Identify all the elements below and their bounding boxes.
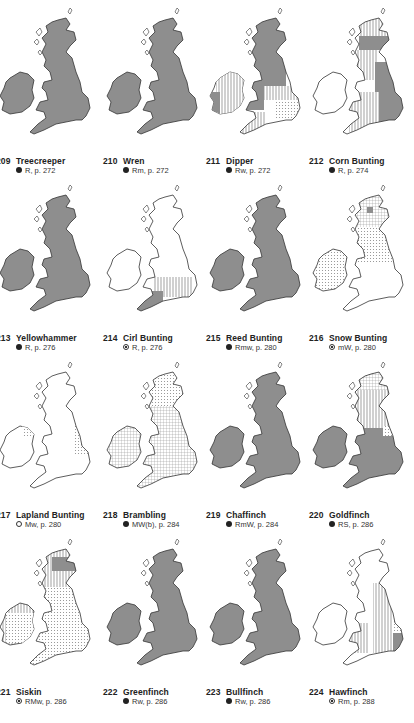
dotted-circle-icon — [329, 698, 335, 704]
species-title: 216Snow Bunting — [309, 333, 414, 343]
species-number: 223 — [206, 687, 226, 697]
ireland-shape — [313, 603, 347, 645]
map-plate: 209Treecreeper R, p. 272 — [0, 2, 100, 180]
map-caption: 216Snow Bunting mW, p. 280 — [309, 333, 414, 352]
species-title: 214Cirl Bunting — [103, 333, 213, 343]
species-name: Yellowhammer — [16, 333, 77, 343]
filled-circle-icon — [226, 521, 232, 527]
status-line: R, p. 276 — [0, 343, 106, 352]
filled-circle-icon — [226, 344, 232, 350]
species-title: 209Treecreeper — [0, 156, 106, 166]
species-name: Reed Bunting — [226, 333, 282, 343]
species-title: 224Hawfinch — [309, 687, 414, 697]
status-line: Rm, p. 288 — [309, 697, 414, 706]
map-plate: 219Chaffinch RmW, p. 284 — [206, 356, 310, 534]
map-caption: 213Yellowhammer R, p. 276 — [0, 333, 106, 352]
british-isles-distribution-map — [309, 2, 413, 154]
filled-circle-icon — [123, 698, 129, 704]
status-line: Rw, p. 286 — [103, 697, 213, 706]
map-plate: 213Yellowhammer R, p. 276 — [0, 179, 100, 357]
filled-circle-icon — [226, 698, 232, 704]
map-caption: 215Reed Bunting Rmw, p. 280 — [206, 333, 316, 352]
species-number: 221 — [0, 687, 16, 697]
map-plate: 214Cirl Bunting R, p. 276 — [103, 179, 207, 357]
species-name: Goldfinch — [329, 510, 370, 520]
map-plate: 211Dipper Rw, p. 272 — [206, 2, 310, 180]
map-caption: 217Lapland Bunting Mw, p. 280 — [0, 510, 106, 529]
species-name: Wren — [123, 156, 145, 166]
species-name: Lapland Bunting — [16, 510, 85, 520]
species-name: Treecreeper — [16, 156, 65, 166]
dotted-circle-icon — [123, 344, 129, 350]
species-number: 222 — [103, 687, 123, 697]
british-isles-distribution-map — [206, 533, 310, 685]
filled-circle-icon — [123, 521, 129, 527]
species-name: Snow Bunting — [329, 333, 387, 343]
status-line: R, p. 274 — [309, 166, 414, 175]
map-plate: 224Hawfinch Rm, p. 288 — [309, 533, 413, 711]
british-isles-distribution-map — [0, 356, 100, 508]
status-text: R, p. 274 — [338, 166, 368, 175]
status-line: mW, p. 280 — [309, 343, 414, 352]
map-caption: 223Bullfinch Rw, p. 286 — [206, 687, 316, 706]
map-caption: 210Wren Rm, p. 272 — [103, 156, 213, 175]
species-number: 217 — [0, 510, 16, 520]
species-number: 212 — [309, 156, 329, 166]
species-number: 209 — [0, 156, 16, 166]
map-plate: 216Snow Bunting mW, p. 280 — [309, 179, 413, 357]
map-caption: 214Cirl Bunting R, p. 276 — [103, 333, 213, 352]
british-isles-distribution-map — [103, 356, 207, 508]
status-text: Rw, p. 286 — [235, 697, 270, 706]
british-isles-distribution-map — [309, 179, 413, 331]
species-title: 211Dipper — [206, 156, 316, 166]
british-isles-distribution-map — [0, 533, 100, 685]
species-title: 220Goldfinch — [309, 510, 414, 520]
status-line: RmW, p. 284 — [206, 520, 316, 529]
ireland-shape — [210, 249, 244, 291]
british-isles-distribution-map — [309, 356, 413, 508]
status-line: Rm, p. 272 — [103, 166, 213, 175]
map-plate: 223Bullfinch Rw, p. 286 — [206, 533, 310, 711]
status-text: Rmw, p. 280 — [235, 343, 277, 352]
status-line: Rmw, p. 280 — [206, 343, 316, 352]
map-caption: 211Dipper Rw, p. 272 — [206, 156, 316, 175]
species-name: Bullfinch — [226, 687, 263, 697]
species-number: 220 — [309, 510, 329, 520]
species-title: 210Wren — [103, 156, 213, 166]
status-line: Rw, p. 272 — [206, 166, 316, 175]
british-isles-distribution-map — [309, 533, 413, 685]
status-line: Mw, p. 280 — [0, 520, 106, 529]
species-name: Greenfinch — [123, 687, 169, 697]
map-plate: 212Corn Bunting R, p. 274 — [309, 2, 413, 180]
species-title: 217Lapland Bunting — [0, 510, 106, 520]
status-line: R, p. 276 — [103, 343, 213, 352]
british-isles-distribution-map — [206, 2, 310, 154]
status-text: RMw, p. 286 — [25, 697, 67, 706]
open-circle-icon — [16, 521, 22, 527]
status-text: Rw, p. 286 — [132, 697, 167, 706]
british-isles-distribution-map — [103, 533, 207, 685]
species-name: Brambling — [123, 510, 166, 520]
ireland-shape — [107, 426, 141, 468]
british-isles-distribution-map — [103, 179, 207, 331]
status-text: RS, p. 286 — [338, 520, 373, 529]
british-isles-distribution-map — [0, 2, 100, 154]
map-plate: 222Greenfinch Rw, p. 286 — [103, 533, 207, 711]
species-title: 212Corn Bunting — [309, 156, 414, 166]
species-name: Siskin — [16, 687, 42, 697]
map-plate: 217Lapland Bunting Mw, p. 280 — [0, 356, 100, 534]
status-line: RMw, p. 286 — [0, 697, 106, 706]
map-caption: 212Corn Bunting R, p. 274 — [309, 156, 414, 175]
status-line: Rw, p. 286 — [206, 697, 316, 706]
map-plate: 220Goldfinch RS, p. 286 — [309, 356, 413, 534]
british-isles-distribution-map — [103, 2, 207, 154]
status-line: RS, p. 286 — [309, 520, 414, 529]
filled-circle-icon — [329, 521, 335, 527]
british-isles-distribution-map — [206, 356, 310, 508]
map-caption: 209Treecreeper R, p. 272 — [0, 156, 106, 175]
species-title: 215Reed Bunting — [206, 333, 316, 343]
status-text: R, p. 276 — [132, 343, 162, 352]
species-number: 219 — [206, 510, 226, 520]
map-caption: 224Hawfinch Rm, p. 288 — [309, 687, 414, 706]
dotted-circle-icon — [16, 698, 22, 704]
